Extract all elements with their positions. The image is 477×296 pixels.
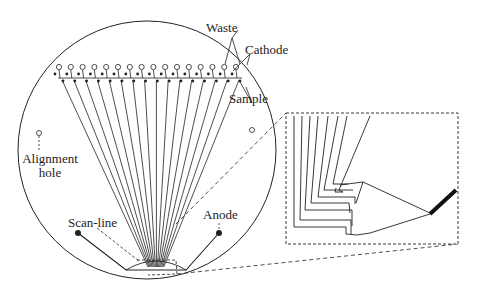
label-alignment-line2: hole — [22, 166, 78, 180]
label-alignment-hole: Alignment hole — [22, 152, 78, 180]
label-alignment-line1: Alignment — [22, 152, 78, 166]
anode-port-right — [216, 230, 222, 236]
label-cathode: Cathode — [245, 43, 288, 57]
label-scan-line: Scan-line — [68, 216, 117, 230]
detail-inset-frame — [286, 113, 458, 244]
chip-diagram — [0, 0, 477, 296]
label-waste: Waste — [206, 21, 237, 35]
label-anode: Anode — [203, 208, 238, 222]
alignment-hole-left — [37, 131, 42, 136]
label-sample: Sample — [229, 92, 268, 106]
wafer-outline — [18, 21, 276, 279]
anode-port-left — [75, 230, 81, 236]
alignment-hole-right — [250, 128, 255, 133]
